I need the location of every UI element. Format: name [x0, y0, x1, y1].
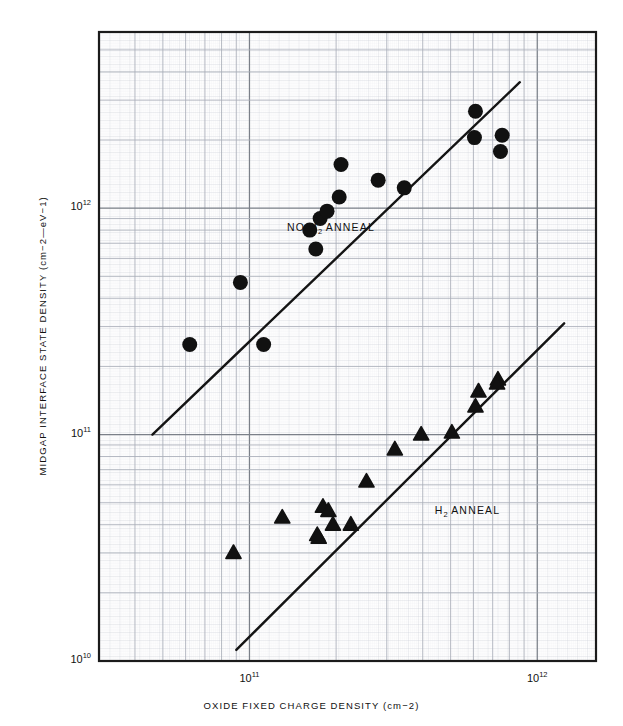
data-point-circle	[308, 242, 323, 257]
y-tick-label: 1011	[45, 427, 91, 439]
data-point-circle	[371, 173, 386, 188]
x-tick-label: 1012	[507, 672, 567, 684]
data-point-circle	[233, 275, 248, 290]
plot-background	[99, 32, 596, 661]
data-point-circle	[495, 128, 510, 143]
series-annotation: NO H2 ANNEAL	[287, 221, 375, 233]
series-annotation: H2 ANNEAL	[435, 504, 501, 516]
x-axis-title: OXIDE FIXED CHARGE DENSITY (cm−2)	[0, 700, 623, 711]
y-tick-label: 1010	[45, 653, 91, 665]
data-point-circle	[467, 130, 482, 145]
data-point-circle	[320, 204, 335, 219]
data-point-circle	[334, 157, 349, 172]
scatter-plot-canvas	[0, 0, 623, 726]
data-point-circle	[397, 180, 412, 195]
data-point-circle	[493, 144, 508, 159]
y-tick-label: 1012	[45, 200, 91, 212]
data-point-circle	[182, 337, 197, 352]
x-tick-label: 1011	[219, 672, 279, 684]
data-point-circle	[332, 190, 347, 205]
x-axis-title-text: OXIDE FIXED CHARGE DENSITY (cm−2)	[204, 700, 420, 711]
chart-figure: MIDGAP INTERFACE STATE DENSITY (cm−2—eV−…	[0, 0, 623, 726]
data-point-circle	[256, 337, 271, 352]
data-point-circle	[468, 104, 483, 119]
